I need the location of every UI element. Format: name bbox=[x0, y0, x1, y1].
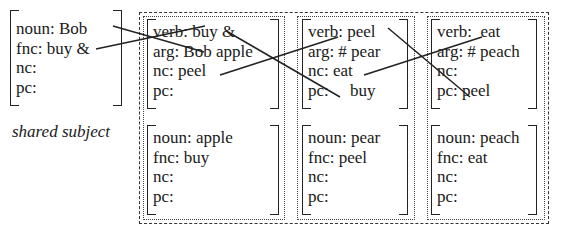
col1-pc: pc: bbox=[153, 81, 279, 101]
right-bracket bbox=[528, 19, 537, 109]
left-bracket bbox=[147, 19, 156, 109]
left-bracket bbox=[10, 10, 19, 106]
col1-noun-pc: pc: bbox=[153, 187, 279, 207]
col3-noun: noun: peach bbox=[437, 128, 537, 148]
shared-subject-caption: shared subject bbox=[12, 122, 110, 142]
col2-verb: verb: peel bbox=[308, 22, 408, 42]
subject-feature-structure: noun: Bob fnc: buy & nc: pc: bbox=[10, 10, 122, 106]
col1-noun: noun: apple bbox=[153, 128, 279, 148]
left-bracket bbox=[302, 125, 311, 215]
right-bracket bbox=[270, 125, 279, 215]
subject-pc: pc: bbox=[16, 78, 122, 98]
col3-fnc: fnc: eat bbox=[437, 148, 537, 168]
column-2-verb-structure: verb: peel arg: # pear nc: eat pc: buy bbox=[302, 19, 408, 109]
col1-fnc: fnc: buy bbox=[153, 148, 279, 168]
subject-fnc: fnc: buy & bbox=[16, 39, 122, 59]
col2-nc: nc: eat bbox=[308, 61, 408, 81]
col3-nc: nc: bbox=[437, 61, 537, 81]
column-3-verb-structure: verb: eat arg: # peach nc: pc: peel bbox=[431, 19, 537, 109]
column-3-noun-structure: noun: peach fnc: eat nc: pc: bbox=[431, 125, 537, 215]
col2-pc: pc: buy bbox=[308, 81, 408, 101]
left-bracket bbox=[431, 19, 440, 109]
col3-verb: verb: eat bbox=[437, 22, 537, 42]
column-1-noun-structure: noun: apple fnc: buy nc: pc: bbox=[147, 125, 279, 215]
col2-noun-nc: nc: bbox=[308, 167, 408, 187]
right-bracket bbox=[270, 19, 279, 109]
col3-arg: arg: # peach bbox=[437, 42, 537, 62]
right-bracket bbox=[528, 125, 537, 215]
col3-noun-nc: nc: bbox=[437, 167, 537, 187]
column-2-noun-structure: noun: pear fnc: peel nc: pc: bbox=[302, 125, 408, 215]
right-bracket bbox=[399, 19, 408, 109]
right-bracket bbox=[113, 10, 122, 106]
col1-arg: arg: Bob apple bbox=[153, 42, 279, 62]
col2-noun-pc: pc: bbox=[308, 187, 408, 207]
col1-verb: verb: buy & bbox=[153, 22, 279, 42]
subject-nc: nc: bbox=[16, 58, 122, 78]
col2-fnc: fnc: peel bbox=[308, 148, 408, 168]
col3-noun-pc: pc: bbox=[437, 187, 537, 207]
left-bracket bbox=[302, 19, 311, 109]
col2-noun: noun: pear bbox=[308, 128, 408, 148]
col3-pc: pc: peel bbox=[437, 81, 537, 101]
col2-arg: arg: # pear bbox=[308, 42, 408, 62]
left-bracket bbox=[147, 125, 156, 215]
subject-noun: noun: Bob bbox=[16, 19, 122, 39]
col1-noun-nc: nc: bbox=[153, 167, 279, 187]
right-bracket bbox=[399, 125, 408, 215]
left-bracket bbox=[431, 125, 440, 215]
col1-nc: nc: peel bbox=[153, 61, 279, 81]
column-1-verb-structure: verb: buy & arg: Bob apple nc: peel pc: bbox=[147, 19, 279, 109]
